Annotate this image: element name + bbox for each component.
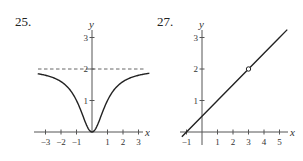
x-tick-label: 2 <box>121 137 126 147</box>
x-tick-label: −3 <box>41 137 51 147</box>
x-tick-label: 5 <box>277 137 282 147</box>
x-tick-label: −2 <box>56 137 66 147</box>
y-axis-label: y <box>88 18 94 30</box>
y-tick-label: 3 <box>84 33 89 43</box>
graph-25: 25. xy−3−2−1123123 <box>0 0 150 161</box>
chart-25-svg: xy−3−2−1123123 <box>0 0 150 161</box>
y-tick-label: 3 <box>194 33 199 43</box>
y-tick-label: 1 <box>84 96 89 106</box>
x-tick-label: 4 <box>262 137 267 147</box>
y-tick-label: 2 <box>194 64 199 74</box>
y-tick-label: 1 <box>194 96 199 106</box>
data-curve <box>182 30 287 137</box>
x-tick-label: 1 <box>105 137 110 147</box>
x-tick-label: 3 <box>246 137 251 147</box>
graph-27: 27. xy−112345123 <box>150 0 303 161</box>
data-curve <box>38 73 150 132</box>
x-tick-label: −1 <box>182 137 192 147</box>
x-tick-label: 3 <box>136 137 141 147</box>
x-tick-label: −1 <box>72 137 82 147</box>
x-axis-label: x <box>289 126 295 138</box>
chart-27-svg: xy−112345123 <box>150 0 303 161</box>
y-axis-label: y <box>198 18 204 30</box>
x-tick-label: 1 <box>215 137 220 147</box>
x-tick-label: 2 <box>231 137 236 147</box>
open-point-marker <box>246 67 250 71</box>
